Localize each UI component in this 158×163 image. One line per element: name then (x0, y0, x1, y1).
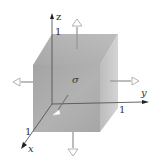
stress-cube-diagram: z 1 σ y 1 1 x (0, 0, 158, 163)
y-edge-length-label: 1 (119, 104, 125, 115)
stress-symbol-label: σ (72, 74, 80, 85)
x-axis-label: x (28, 143, 34, 154)
right-arrow-head-icon (132, 77, 139, 85)
y-axis-arrowhead-icon (142, 100, 149, 104)
y-axis-label: y (140, 87, 147, 98)
z-axis-label: z (56, 11, 61, 22)
bottom-arrow-head-icon (68, 149, 78, 156)
z-edge-length-label: 1 (55, 26, 61, 37)
z-axis-arrowhead-icon (50, 13, 54, 19)
left-arrow-head-icon (13, 78, 20, 86)
x-edge-length-label: 1 (25, 126, 31, 137)
x-axis-arrowhead-icon (21, 142, 27, 149)
cube-front-face (33, 65, 100, 132)
top-arrow-head-icon (72, 19, 82, 26)
